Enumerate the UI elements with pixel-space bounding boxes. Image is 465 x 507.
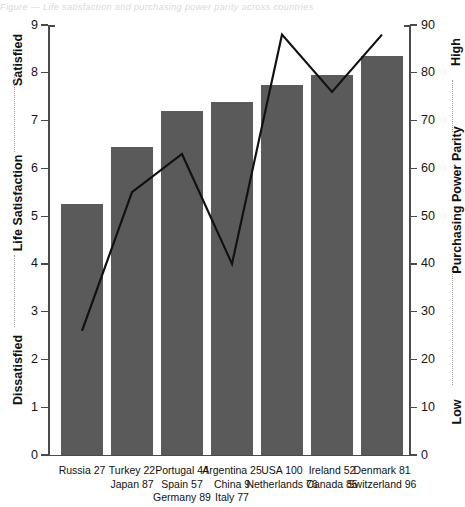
left-axis-tick-label: 0 — [8, 449, 38, 462]
right-axis-tick — [410, 120, 417, 121]
top-caption: Figure — Life satisfaction and purchasin… — [0, 0, 465, 14]
right-axis-tick — [410, 454, 417, 455]
left-axis-tick-label: 3 — [8, 305, 38, 318]
right-axis-tick — [410, 311, 417, 312]
bar-denmark-81[interactable] — [361, 56, 404, 455]
left-axis-tick-label: 7 — [8, 114, 38, 127]
left-axis-top-cap — [48, 25, 55, 27]
left-axis-label: Life Satisfaction — [11, 155, 25, 252]
left-axis-tick-label: 9 — [8, 19, 38, 32]
bar-argentina-25[interactable] — [211, 102, 254, 455]
x-axis-labels: Russia 27Turkey 22Japan 87Portugal 44Spa… — [48, 460, 410, 507]
left-axis-tick — [41, 454, 48, 455]
right-axis-tick — [410, 168, 417, 169]
bar-turkey-22[interactable] — [111, 147, 154, 455]
right-axis-tick-label: 0 — [421, 449, 455, 462]
left-axis-tick — [41, 120, 48, 121]
left-axis-tick-label: 4 — [8, 257, 38, 270]
left-axis-tick — [41, 407, 48, 408]
right-axis-label-high: High — [449, 38, 463, 66]
right-axis-tick — [410, 263, 417, 264]
right-axis-dots-upper — [452, 80, 453, 132]
right-axis-tick — [410, 72, 417, 73]
x-axis-label-line: Denmark 81 — [341, 464, 423, 478]
right-axis-tick-label: 90 — [421, 19, 455, 32]
bar-ireland-52[interactable] — [311, 75, 354, 455]
x-axis-label-group: Denmark 81Switzerland 96 — [341, 464, 423, 491]
right-axis-tick-label: 80 — [421, 66, 455, 79]
right-axis-spine — [409, 25, 411, 455]
right-axis-tick-label: 20 — [421, 353, 455, 366]
right-axis-tick-label: 70 — [421, 114, 455, 127]
bar-portugal-44[interactable] — [161, 111, 204, 455]
bars-layer — [57, 25, 407, 455]
left-axis-dots-upper — [14, 74, 15, 152]
right-axis-label: Purchasing Power Parity — [449, 126, 463, 273]
bar-russia-27[interactable] — [61, 204, 104, 455]
right-axis-dots-lower — [452, 270, 453, 385]
left-axis-tick — [41, 216, 48, 217]
right-axis-tick-label: 30 — [421, 305, 455, 318]
bar-usa-100[interactable] — [261, 85, 304, 455]
left-axis-tick — [41, 359, 48, 360]
x-axis-label-line: Italy 77 — [191, 491, 273, 505]
left-axis-spine — [48, 25, 50, 455]
left-axis-label-low: Dissatisfied — [11, 335, 25, 405]
right-axis-tick — [410, 407, 417, 408]
x-axis-label-line: Switzerland 96 — [341, 478, 423, 492]
left-axis-dots-lower — [14, 255, 15, 327]
left-axis-tick — [41, 72, 48, 73]
right-axis-tick — [410, 359, 417, 360]
chart-root: Figure — Life satisfaction and purchasin… — [0, 0, 465, 507]
left-axis-tick — [41, 168, 48, 169]
left-axis-tick — [41, 24, 48, 25]
right-axis-label-low: Low — [449, 400, 463, 425]
left-axis-tick — [41, 311, 48, 312]
right-axis-tick — [410, 24, 417, 25]
left-axis-tick — [41, 263, 48, 264]
right-axis-tick — [410, 216, 417, 217]
